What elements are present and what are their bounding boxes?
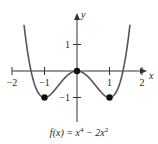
x-tick-label: −1 [39,77,50,88]
y-axis-label: y [80,9,86,20]
x-axis-arrow-icon [140,68,147,74]
caption-mid: − 2x [83,127,105,138]
function-caption: f(x) = x4 − 2x2 [50,126,109,139]
y-axis-arrow-icon [74,13,80,20]
caption-exp2: 2 [105,126,109,134]
caption-lhs: f(x) = x [50,127,81,139]
x-tick-label: 1 [107,77,112,88]
y-tick-label: 1 [65,39,70,50]
critical-point [106,94,112,100]
x-tick-label: 2 [140,77,145,88]
x-axis-label: x [148,70,154,81]
x-tick-label: −2 [7,77,18,88]
function-plot: xy −2−1121−1 f(x) = x4 − 2x2 [0,0,158,144]
critical-point [74,68,80,74]
y-tick-label: −1 [59,92,70,103]
critical-point [41,94,47,100]
